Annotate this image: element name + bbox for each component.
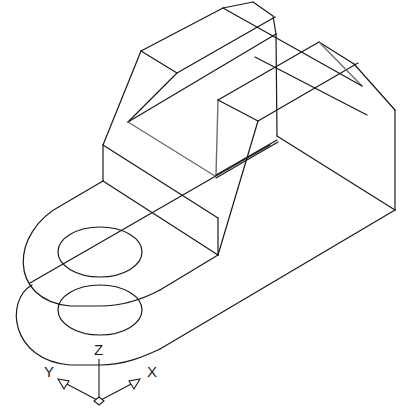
ucs-y-axis [63,382,99,401]
ucs-x-arrow-icon [129,379,140,389]
ucs-y-label: Y [44,363,54,380]
ucs-origin-icon [94,397,104,405]
isometric-part-wireframe [16,2,395,365]
ucs-y-arrow-icon [58,379,69,389]
ucs-x-label: X [147,363,157,380]
ucs-x-axis [99,382,135,401]
ucs-z-label: Z [94,341,103,358]
ucs-icon: Z Y X [44,341,157,405]
cad-viewport[interactable]: Z Y X [0,0,407,414]
